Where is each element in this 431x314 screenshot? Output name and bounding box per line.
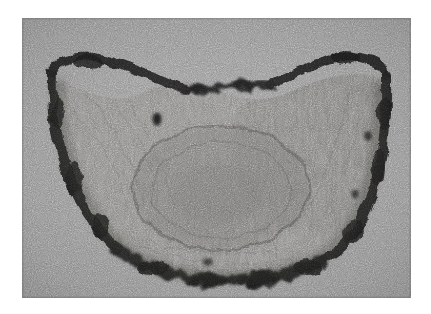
micrograph-canvas <box>22 18 411 298</box>
page-root <box>0 0 431 314</box>
micrograph-plate <box>22 18 411 298</box>
film-grain-secondary <box>22 18 411 298</box>
